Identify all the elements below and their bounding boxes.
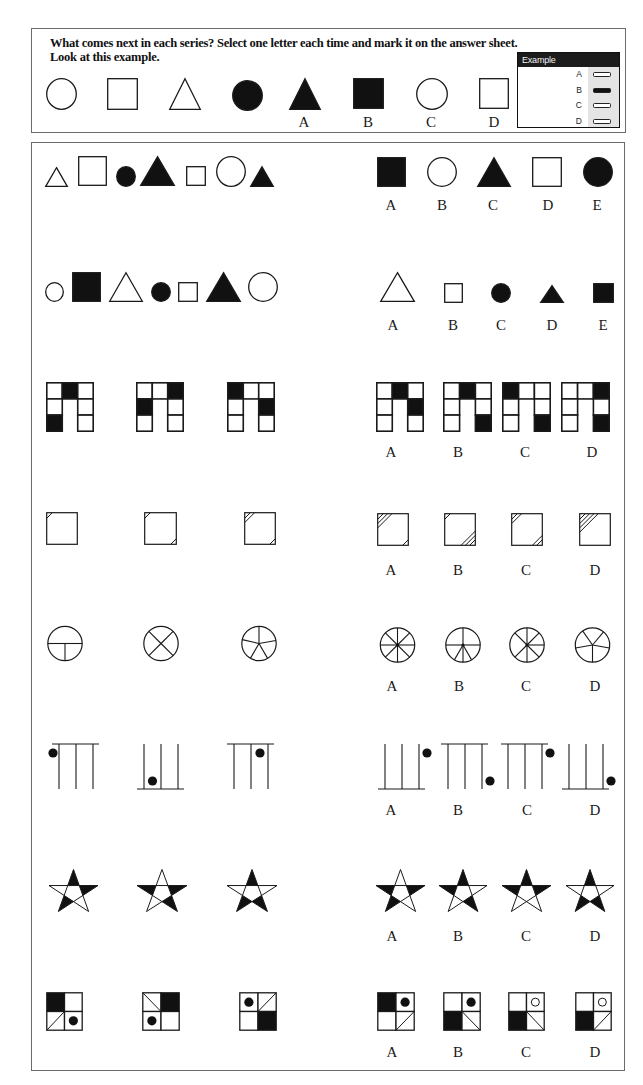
q7-sequence-figure — [49, 869, 98, 912]
q1-option-a-figure[interactable] — [377, 157, 406, 187]
q4-option-a-label[interactable]: A — [379, 561, 403, 579]
q8-option-b-figure[interactable] — [443, 992, 481, 1031]
q1-option-b-label[interactable]: B — [430, 196, 454, 214]
q5-option-d-label[interactable]: D — [583, 677, 607, 695]
q2-sequence-figure — [45, 282, 64, 302]
q8-option-d-figure[interactable] — [575, 992, 612, 1031]
q7-option-d-label[interactable]: D — [583, 927, 607, 945]
example-figure-filled-circle — [232, 80, 263, 111]
q1-sequence-figure — [78, 156, 107, 186]
q8-sequence-figure — [239, 992, 277, 1031]
q5-option-b-figure[interactable] — [445, 627, 481, 663]
q1-option-e-label[interactable]: E — [585, 196, 609, 214]
q1-option-c-label[interactable]: C — [481, 196, 505, 214]
q4-option-b-label[interactable]: B — [446, 561, 470, 579]
q8-option-d-label[interactable]: D — [583, 1043, 607, 1061]
q3-option-d-label[interactable]: D — [580, 443, 604, 461]
q2-option-e-label[interactable]: E — [591, 316, 615, 334]
q6-option-a-label[interactable]: A — [379, 801, 403, 819]
q1-option-b-figure[interactable] — [427, 157, 457, 187]
q1-option-d-figure[interactable] — [532, 157, 562, 187]
q6-option-a-figure[interactable] — [373, 743, 435, 793]
q4-option-c-figure[interactable] — [511, 513, 543, 546]
q1-sequence-figure — [140, 156, 175, 186]
q5-option-a-label[interactable]: A — [380, 677, 404, 695]
q7-option-a-figure[interactable] — [376, 869, 425, 912]
q8-option-b-label[interactable]: B — [446, 1043, 470, 1061]
q3-option-c-label[interactable]: C — [513, 443, 537, 461]
example-option-d-figure — [479, 78, 509, 109]
answer-card-row-b: B — [518, 83, 619, 98]
q1-sequence-figure — [250, 166, 274, 187]
q6-option-c-figure[interactable] — [496, 743, 558, 793]
example-option-a-label: A — [292, 113, 316, 131]
q7-option-b-figure[interactable] — [439, 869, 487, 912]
q8-option-a-figure[interactable] — [377, 992, 415, 1031]
q2-option-b-figure[interactable] — [444, 283, 463, 303]
example-intro-text: Look at this example. — [50, 50, 159, 64]
q4-sequence-figure — [144, 512, 177, 545]
q3-sequence-figure — [46, 382, 94, 432]
q2-option-c-label[interactable]: C — [489, 316, 513, 334]
q7-option-c-label[interactable]: C — [514, 927, 538, 945]
q6-option-b-figure[interactable] — [436, 743, 498, 793]
q5-option-d-figure[interactable] — [574, 627, 611, 663]
q3-option-b-figure[interactable] — [443, 382, 492, 432]
q8-sequence-figure — [46, 992, 83, 1031]
q7-option-b-label[interactable]: B — [446, 927, 470, 945]
q3-sequence-figure — [136, 382, 184, 432]
q2-option-d-figure[interactable] — [540, 285, 564, 303]
q1-option-e-figure[interactable] — [583, 157, 613, 187]
example-figure-square — [107, 78, 138, 110]
q1-option-d-label[interactable]: D — [536, 196, 560, 214]
q3-option-a-label[interactable]: A — [379, 443, 403, 461]
q2-option-d-label[interactable]: D — [540, 316, 564, 334]
q2-sequence-figure — [178, 282, 198, 302]
q7-option-c-figure[interactable] — [502, 869, 551, 912]
q2-option-c-figure[interactable] — [491, 283, 511, 303]
q2-option-b-label[interactable]: B — [441, 316, 465, 334]
q5-option-c-label[interactable]: C — [514, 677, 538, 695]
q4-option-a-figure[interactable] — [377, 513, 409, 546]
q5-option-b-label[interactable]: B — [447, 677, 471, 695]
example-option-c-label: C — [419, 113, 443, 131]
q6-sequence-figure — [222, 743, 284, 793]
q3-option-d-figure[interactable] — [561, 382, 610, 432]
q4-option-d-figure[interactable] — [579, 513, 611, 546]
q8-option-c-figure[interactable] — [508, 992, 545, 1031]
q2-option-e-figure[interactable] — [593, 283, 614, 303]
q4-option-b-figure[interactable] — [444, 513, 476, 546]
q6-option-d-label[interactable]: D — [583, 801, 607, 819]
example-option-b-figure — [353, 78, 384, 109]
q7-option-a-label[interactable]: A — [380, 927, 404, 945]
q2-option-a-figure[interactable] — [380, 272, 415, 302]
q2-sequence-figure — [72, 272, 101, 302]
example-option-c-figure — [416, 78, 448, 110]
q5-option-c-figure[interactable] — [509, 627, 545, 663]
q7-sequence-figure — [137, 869, 187, 912]
q1-option-a-label[interactable]: A — [379, 196, 403, 214]
q3-option-b-label[interactable]: B — [446, 443, 470, 461]
q5-option-a-figure[interactable] — [379, 627, 416, 663]
q7-option-d-figure[interactable] — [566, 869, 614, 912]
q1-sequence-figure — [216, 156, 246, 187]
answer-bubble-c — [593, 103, 611, 108]
q8-option-a-label[interactable]: A — [380, 1043, 404, 1061]
q4-sequence-figure — [244, 512, 276, 545]
q6-option-b-label[interactable]: B — [446, 801, 470, 819]
q3-option-c-figure[interactable] — [502, 382, 551, 432]
answer-card-letter: C — [576, 98, 582, 113]
q1-option-c-figure[interactable] — [477, 157, 511, 187]
q4-option-c-label[interactable]: C — [514, 561, 538, 579]
q8-option-c-label[interactable]: C — [514, 1043, 538, 1061]
q3-option-a-figure[interactable] — [376, 382, 424, 432]
example-figure-circle — [46, 78, 77, 110]
q7-sequence-figure — [227, 869, 277, 912]
q2-option-a-label[interactable]: A — [381, 316, 405, 334]
q5-sequence-figure — [241, 625, 277, 662]
answer-card-letter: D — [576, 114, 582, 129]
q4-option-d-label[interactable]: D — [583, 561, 607, 579]
q4-sequence-figure — [46, 512, 78, 545]
q6-option-d-figure[interactable] — [557, 743, 619, 793]
q6-option-c-label[interactable]: C — [515, 801, 539, 819]
